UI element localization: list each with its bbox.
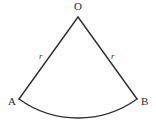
sector-figure: O A B r r <box>0 0 156 126</box>
sector-drawing-canvas <box>0 0 156 126</box>
vertex-label-a: A <box>8 96 16 107</box>
vertex-label-o: O <box>74 1 82 12</box>
radius-label-left: r <box>39 52 43 61</box>
radius-line-oa <box>19 17 78 99</box>
arc-path-ab <box>19 99 137 118</box>
vertex-label-b: B <box>141 96 148 107</box>
radius-line-ob <box>78 17 137 99</box>
radius-label-right: r <box>111 52 115 61</box>
